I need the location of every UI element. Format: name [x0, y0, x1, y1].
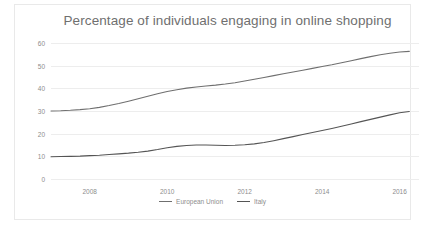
y-axis-tick-label: 10: [38, 153, 45, 160]
y-axis-tick-label: 60: [38, 40, 45, 47]
chart-legend: European UnionItaly: [14, 198, 411, 205]
chart-frame: Percentage of individuals engaging in on…: [14, 4, 411, 220]
x-axis-tick-label: 2014: [315, 188, 329, 195]
series-line: [51, 51, 409, 111]
legend-item[interactable]: Italy: [237, 198, 266, 205]
x-axis-tick-label: 2016: [392, 188, 406, 195]
gridline: [51, 179, 419, 180]
series-lines: [51, 43, 419, 179]
legend-item[interactable]: European Union: [159, 198, 223, 205]
x-axis-tick-label: 2008: [83, 188, 97, 195]
y-axis-tick-label: 30: [38, 108, 45, 115]
chart-title: Percentage of individuals engaging in on…: [29, 13, 426, 28]
legend-swatch: [159, 201, 172, 202]
legend-label: Italy: [254, 198, 266, 205]
legend-swatch: [237, 201, 250, 202]
y-axis-tick-label: 50: [38, 62, 45, 69]
x-axis-tick-label: 2010: [160, 188, 174, 195]
series-line: [51, 111, 409, 156]
y-axis-tick-label: 40: [38, 85, 45, 92]
legend-label: European Union: [176, 198, 223, 205]
y-axis-tick-label: 0: [41, 176, 45, 183]
plot-area: 0102030405060 20082010201220142016: [51, 43, 419, 179]
y-axis-tick-label: 20: [38, 130, 45, 137]
x-axis-tick-label: 2012: [237, 188, 251, 195]
